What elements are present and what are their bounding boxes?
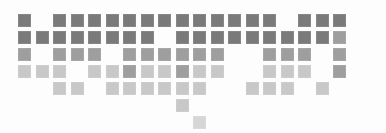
mosaic-cell (53, 82, 66, 95)
mosaic-cell (263, 82, 276, 95)
mosaic-cell (106, 14, 119, 27)
mosaic-cell (141, 48, 154, 61)
mosaic-cell (211, 48, 224, 61)
mosaic-cell (193, 14, 206, 27)
mosaic-cell (281, 65, 294, 78)
mosaic-cell (18, 14, 31, 27)
mosaic-cell (158, 82, 171, 95)
mosaic-cell (246, 14, 259, 27)
mosaic-cell (176, 14, 189, 27)
mosaic-cell (176, 48, 189, 61)
mosaic-cell (106, 82, 119, 95)
mosaic-cell (193, 82, 206, 95)
mosaic-cell (123, 14, 136, 27)
mosaic-cell (263, 31, 276, 44)
mosaic-cell (193, 48, 206, 61)
mosaic-cell (36, 65, 49, 78)
mosaic-cell (281, 82, 294, 95)
mosaic-cell (211, 14, 224, 27)
mosaic-cell (88, 48, 101, 61)
mosaic-cell (193, 65, 206, 78)
mosaic-cell (53, 31, 66, 44)
mosaic-cell (18, 65, 31, 78)
mosaic-cell (18, 31, 31, 44)
mosaic-cell (158, 65, 171, 78)
mosaic-cell (333, 65, 346, 78)
mosaic-cell (263, 65, 276, 78)
mosaic-cell (316, 14, 329, 27)
mosaic-cell (228, 14, 241, 27)
mosaic-cell (246, 82, 259, 95)
mosaic-cell (123, 65, 136, 78)
mosaic-cell (36, 31, 49, 44)
mosaic-cell (333, 48, 346, 61)
mosaic-cell (176, 31, 189, 44)
mosaic-cell (141, 65, 154, 78)
mosaic-cell (88, 14, 101, 27)
mosaic-cell (298, 31, 311, 44)
mosaic-cell (141, 82, 154, 95)
mosaic-cell (193, 116, 206, 129)
mosaic-cell (193, 31, 206, 44)
mosaic-cell (71, 82, 84, 95)
mosaic-cell (88, 65, 101, 78)
mosaic-cell (123, 48, 136, 61)
mosaic-cell (263, 14, 276, 27)
mosaic-cell (316, 31, 329, 44)
mosaic-cell (176, 82, 189, 95)
mosaic-cell (246, 31, 259, 44)
mosaic-cell (141, 14, 154, 27)
mosaic-cell (176, 99, 189, 112)
mosaic-cell (141, 31, 154, 44)
mosaic-cell (298, 48, 311, 61)
mosaic-cell (71, 48, 84, 61)
mosaic-cell (123, 82, 136, 95)
mosaic-cell (298, 14, 311, 27)
mosaic-cell (53, 48, 66, 61)
mosaic-cell (106, 31, 119, 44)
pixel-mosaic-graphic (0, 0, 386, 133)
mosaic-cell (71, 31, 84, 44)
mosaic-cell (158, 48, 171, 61)
mosaic-cell (281, 31, 294, 44)
mosaic-cell (18, 48, 31, 61)
mosaic-cell (211, 65, 224, 78)
mosaic-cell (263, 48, 276, 61)
mosaic-cell (333, 31, 346, 44)
mosaic-cell (106, 65, 119, 78)
mosaic-cell (88, 31, 101, 44)
mosaic-cell (228, 31, 241, 44)
mosaic-cell (281, 48, 294, 61)
mosaic-cell (158, 14, 171, 27)
mosaic-cell (333, 14, 346, 27)
mosaic-cell (71, 14, 84, 27)
mosaic-cell (316, 82, 329, 95)
mosaic-cell (211, 31, 224, 44)
mosaic-cell (298, 65, 311, 78)
mosaic-cell (123, 31, 136, 44)
mosaic-cell (176, 65, 189, 78)
mosaic-cell (53, 65, 66, 78)
mosaic-cell (53, 14, 66, 27)
